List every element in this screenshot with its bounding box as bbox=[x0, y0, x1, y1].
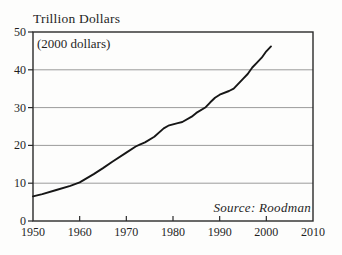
chart-figure: 010203040501950196019701980199020002010 … bbox=[0, 0, 342, 255]
chart-title: Trillion Dollars bbox=[33, 11, 120, 27]
x-tick-label: 1990 bbox=[208, 225, 232, 239]
y-tick-label: 20 bbox=[14, 138, 26, 152]
x-tick-label: 2010 bbox=[301, 225, 325, 239]
data-line-gross-world-product bbox=[33, 46, 271, 196]
y-tick-label: 50 bbox=[14, 25, 26, 39]
y-tick-label: 10 bbox=[14, 176, 26, 190]
x-tick-label: 1970 bbox=[114, 225, 138, 239]
source-note: Source: Roodman bbox=[213, 200, 311, 216]
y-tick-label: 40 bbox=[14, 63, 26, 77]
x-tick-label: 1980 bbox=[161, 225, 185, 239]
x-tick-label: 1950 bbox=[21, 225, 45, 239]
plot-border bbox=[33, 32, 313, 221]
x-tick-label: 1960 bbox=[68, 225, 92, 239]
x-tick-label: 2000 bbox=[254, 225, 278, 239]
chart-subtitle: (2000 dollars) bbox=[37, 36, 110, 52]
y-tick-label: 30 bbox=[14, 101, 26, 115]
